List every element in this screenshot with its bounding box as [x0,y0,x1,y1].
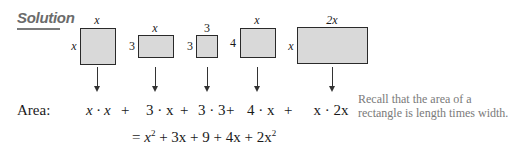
arrowhead-icon [94,86,100,92]
arrowhead-icon [204,86,210,92]
area-label: Area: [17,102,50,118]
exponent: 2 [272,128,277,138]
solution-heading: Solution [17,9,75,26]
side-label: x [286,40,296,52]
arrowhead-icon [254,86,260,92]
area-term-5: x · 2x [314,102,349,118]
note-line-2: rectangle is length times width. [358,106,508,120]
top-label: x [92,14,102,26]
area-term-3: 3 · 3 [198,102,226,118]
area-term-2: 3 · x [146,102,174,118]
exponent: 2 [151,128,156,138]
side-label: 3 [127,40,137,52]
side-label: 3 [185,40,195,52]
area-term-1: x · x [86,102,111,118]
arrowhead-icon [329,86,335,92]
heading-underline [17,28,60,30]
result-x: x [144,129,151,145]
top-label: 2x [322,14,342,26]
rectangle-shape [80,28,116,65]
top-label: x [252,14,262,26]
rectangle-shape [240,28,276,58]
down-arrow-icon [97,67,98,87]
rectangle-shape [138,35,174,58]
result-expression: = x2 + 3x + 9 + 4x + 2x2 [132,129,276,145]
arrowhead-icon [152,86,158,92]
down-arrow-icon [332,67,333,87]
down-arrow-icon [155,67,156,87]
plus-sign: + [121,102,129,118]
side-label: x [69,40,79,52]
down-arrow-icon [257,67,258,87]
area-term-4: 4 · x [247,102,275,118]
rectangle-shape [297,27,368,64]
top-label: 3 [202,22,212,34]
plus-sign: + [226,102,234,118]
plus-sign: + [284,102,292,118]
equals-sign: = [132,129,140,145]
note-line-1: Recall that the area of a [358,92,472,106]
rectangle-shape [196,35,218,58]
top-label: x [150,22,160,34]
side-label: 4 [228,37,238,49]
result-rest: + 3x + 9 + 4x + 2x [159,129,272,145]
plus-sign: + [180,102,188,118]
down-arrow-icon [207,67,208,87]
